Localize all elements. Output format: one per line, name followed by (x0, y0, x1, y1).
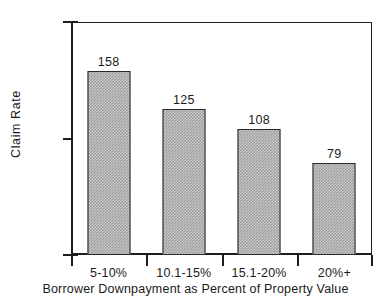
bar-value-1: 158 (98, 55, 120, 69)
bar-group-3: 108 (222, 22, 297, 255)
x-tick-mark-3 (297, 255, 299, 266)
bar-group-4: 79 (297, 22, 372, 255)
x-tick-mark-0 (71, 255, 73, 266)
bar-value-3: 108 (248, 113, 270, 127)
bar-3 (238, 129, 281, 255)
x-tick-mark-2 (222, 255, 224, 266)
x-category-label-3: 15.1-20% (222, 266, 297, 280)
bar-group-1: 158 (71, 22, 146, 255)
bar-chart: Claim Rate 200 100* 0 158 125 108 79 (0, 0, 391, 301)
bar-2 (162, 109, 205, 255)
bar-group-2: 125 (146, 22, 221, 255)
bar-4 (313, 163, 356, 255)
bars-layer: 158 125 108 79 (71, 22, 372, 255)
x-tick-mark-4 (371, 255, 373, 266)
bar-value-2: 125 (173, 93, 195, 107)
bar-1 (87, 71, 130, 255)
x-category-label-4: 20%+ (297, 266, 372, 280)
x-tick-mark-1 (146, 255, 148, 266)
x-category-label-2: 10.1-15% (146, 266, 221, 280)
x-axis-title: Borrower Downpayment as Percent of Prope… (0, 282, 391, 296)
y-axis-title: Claim Rate (9, 64, 23, 184)
x-category-label-1: 5-10% (71, 266, 146, 280)
bar-value-4: 79 (327, 147, 342, 161)
